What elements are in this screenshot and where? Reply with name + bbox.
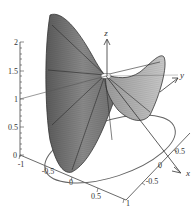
right-tick-m05: -0.5 [146,177,159,186]
z-tick-0: 0 [13,151,17,160]
z-axis-arrow: z [103,28,110,76]
z-tick-axis: 2 1.5 1 0.5 0 [8,38,24,160]
z-tick-0-5: 0.5 [8,123,18,132]
y-axis-label: y [179,70,184,80]
right-tick-1: 1 [126,199,130,206]
left-tick-m1: -1 [18,160,25,169]
z-tick-1: 1 [14,95,18,104]
saddle-surface-plot: 2 1.5 1 0.5 0 -1 -0.5 0 0.5 1 -0.5 0 0.5 [0,0,193,206]
right-tick-05: 0.5 [175,147,185,156]
x-axis-label: x [185,168,190,178]
z-tick-1-5: 1.5 [8,67,18,76]
z-tick-2: 2 [14,38,18,47]
right-tick-0: 0 [158,161,162,170]
z-axis-label: z [103,28,108,38]
left-tick-05: 0.5 [91,192,101,201]
